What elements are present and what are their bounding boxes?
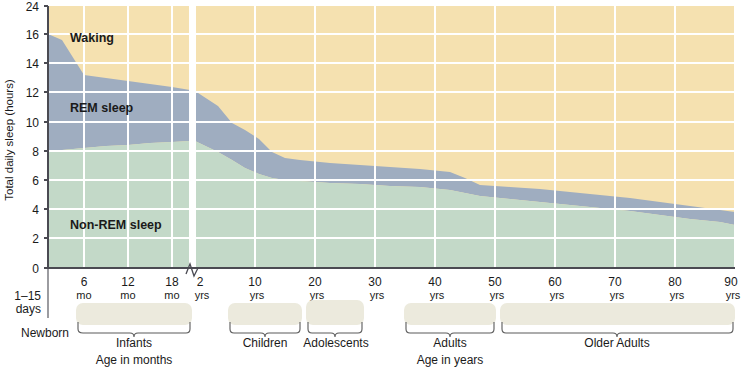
x-tick-10yrs-unit: yrs: [250, 289, 265, 301]
x-tick-70yrs-unit: yrs: [610, 289, 625, 301]
x-tick-20yrs-value: 20: [308, 275, 322, 289]
y-tick-6: 6: [32, 174, 39, 188]
y-tick-2: 2: [32, 232, 39, 246]
x-tick-90yrs-unit: yrs: [726, 289, 741, 301]
x-tick-90yrs-value: 90: [724, 275, 738, 289]
x-tick-60yrs-unit: yrs: [550, 289, 565, 301]
x-tick-50yrs-value: 50: [488, 275, 502, 289]
x-tick-80yrs-unit: yrs: [670, 289, 685, 301]
axis-break-divider: [189, 6, 196, 268]
newborn-duration-unit: days: [16, 302, 41, 316]
y-tick-14: 14: [26, 57, 40, 71]
x-tick-40yrs-unit: yrs: [430, 289, 445, 301]
y-tick-4: 4: [32, 203, 39, 217]
y-tick-12: 12: [26, 86, 40, 100]
x-tick-80yrs-value: 80: [668, 275, 682, 289]
x-tick-2yrs-value: 2: [197, 275, 204, 289]
x-tick-10yrs-value: 10: [248, 275, 262, 289]
stage-box-adults: [404, 303, 496, 325]
x-axis-title-months: Age in months: [96, 353, 173, 367]
x-tick-30yrs-unit: yrs: [370, 289, 385, 301]
stage-box-adolescents: [306, 300, 364, 325]
stage-box-children: [228, 303, 302, 325]
sleep-lifespan-chart: Waking REM sleep Non-REM sleep 24 16 14 …: [0, 0, 742, 368]
x-tick-70yrs-value: 70: [608, 275, 622, 289]
x-axis-title-years: Age in years: [417, 353, 484, 367]
newborn-duration: 1–15: [14, 289, 41, 303]
x-tick-2yrs-unit: yrs: [195, 289, 210, 301]
label-waking: Waking: [70, 31, 114, 45]
stage-label-infants: Infants: [116, 336, 152, 350]
x-tick-18mo-value: 18: [165, 275, 179, 289]
newborn-label: Newborn: [21, 326, 69, 340]
stage-label-adults: Adults: [433, 336, 466, 350]
y-tick-8: 8: [32, 145, 39, 159]
y-tick-24: 24: [26, 0, 40, 14]
x-tick-60yrs-value: 60: [548, 275, 562, 289]
x-tick-40yrs-value: 40: [428, 275, 442, 289]
stage-label-children: Children: [243, 336, 288, 350]
y-tick-16: 16: [26, 28, 40, 42]
stage-box-infants: [76, 303, 192, 325]
x-tick-6mo-value: 6: [81, 275, 88, 289]
stage-box-older-adults: [500, 303, 735, 325]
label-rem: REM sleep: [70, 101, 134, 115]
x-tick-50yrs-unit: yrs: [490, 289, 505, 301]
y-axis-title: Total daily sleep (hours): [3, 79, 15, 201]
x-tick-18mo-unit: mo: [164, 289, 179, 301]
stage-label-older-adults: Older Adults: [584, 336, 649, 350]
x-tick-6mo-unit: mo: [76, 289, 91, 301]
y-tick-10: 10: [26, 116, 40, 130]
y-tick-0: 0: [32, 262, 39, 276]
x-tick-12mo-value: 12: [121, 275, 135, 289]
stage-label-adolescents: Adolescents: [303, 336, 368, 350]
x-tick-30yrs-value: 30: [368, 275, 382, 289]
x-tick-20yrs-unit: yrs: [310, 289, 325, 301]
label-nonrem: Non-REM sleep: [70, 218, 162, 232]
x-tick-12mo-unit: mo: [120, 289, 135, 301]
